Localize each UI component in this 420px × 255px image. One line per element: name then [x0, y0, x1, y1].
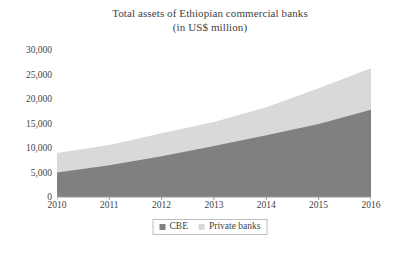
legend-swatch-icon — [160, 224, 166, 230]
y-tick-label: 25,000 — [0, 70, 52, 80]
y-tick-label: 10,000 — [0, 143, 52, 153]
legend-item-private-banks: Private banks — [199, 221, 260, 232]
chart-figure: Total assets of Ethiopian commercial ban… — [0, 0, 420, 255]
x-tick-label: 2014 — [257, 200, 276, 210]
legend-swatch-icon — [199, 224, 205, 230]
x-tick-label: 2016 — [362, 200, 381, 210]
x-tick-label: 2013 — [205, 200, 224, 210]
chart-legend: CBE Private banks — [153, 219, 268, 235]
x-tick-label: 2011 — [100, 200, 119, 210]
y-tick-label: 20,000 — [0, 94, 52, 104]
chart-subtitle: (in US$ million) — [0, 20, 420, 34]
plot-area — [57, 50, 371, 197]
legend-item-cbe: CBE — [160, 221, 188, 232]
x-tick-label: 2012 — [152, 200, 171, 210]
chart-title-block: Total assets of Ethiopian commercial ban… — [0, 6, 420, 34]
area-chart-svg — [57, 50, 371, 202]
y-tick-label: 30,000 — [0, 45, 52, 55]
legend-label: Private banks — [209, 221, 260, 232]
y-tick-label: 0 — [0, 192, 52, 202]
x-axis-labels: 2010 2011 2012 2013 2014 2015 2016 — [57, 200, 371, 216]
x-tick-label: 2010 — [48, 200, 67, 210]
legend-label: CBE — [170, 221, 188, 232]
y-tick-label: 5,000 — [0, 168, 52, 178]
y-tick-label: 15,000 — [0, 119, 52, 129]
x-tick-label: 2015 — [309, 200, 328, 210]
chart-title: Total assets of Ethiopian commercial ban… — [0, 6, 420, 20]
y-axis-labels: 30,000 25,000 20,000 15,000 10,000 5,000… — [0, 50, 52, 197]
